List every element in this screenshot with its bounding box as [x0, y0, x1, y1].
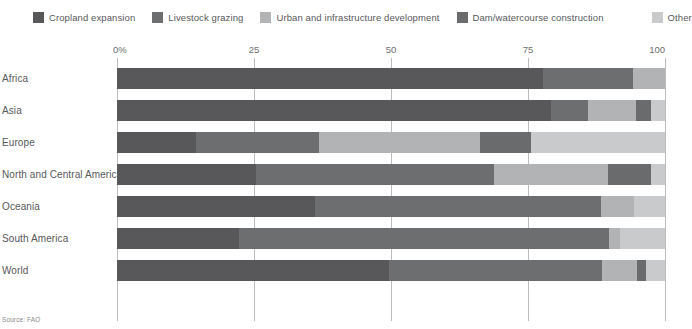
legend-swatch-other — [652, 12, 663, 23]
legend-label-cropland-expansion: Cropland expansion — [49, 12, 135, 23]
bar-segment-cropland-expansion[interactable] — [117, 68, 543, 89]
category-label-north-and-central-america: North and Central America — [2, 158, 114, 190]
bar-segment-dam-watercourse-construction[interactable] — [480, 132, 531, 153]
category-label-europe: Europe — [2, 126, 114, 158]
x-axis-tick-50: 50 — [386, 44, 397, 55]
bar-segment-cropland-expansion[interactable] — [117, 228, 239, 249]
legend-swatch-dam-watercourse-construction — [457, 12, 468, 23]
stacked-bar-world — [117, 260, 665, 281]
legend-label-livestock-grazing: Livestock grazing — [168, 12, 243, 23]
bar-segment-cropland-expansion[interactable] — [117, 132, 196, 153]
stacked-bar-south-america — [117, 228, 665, 249]
bar-segment-dam-watercourse-construction[interactable] — [637, 260, 646, 281]
category-label-oceania: Oceania — [2, 190, 114, 222]
chart-row-europe: Europe — [0, 126, 672, 158]
x-axis-tick-0: 0% — [113, 44, 127, 55]
category-label-asia: Asia — [2, 94, 114, 126]
bar-segment-livestock-grazing[interactable] — [315, 196, 601, 217]
legend-label-urban-and-infrastructure-development: Urban and infrastructure development — [276, 12, 439, 23]
category-label-world: World — [2, 254, 114, 286]
chart-legend: Cropland expansion Livestock grazing Urb… — [0, 6, 672, 28]
bar-segment-cropland-expansion[interactable] — [117, 196, 315, 217]
bar-segment-other[interactable] — [651, 164, 665, 185]
bar-segment-livestock-grazing[interactable] — [239, 228, 609, 249]
stacked-bar-africa — [117, 68, 665, 89]
x-axis-tick-25: 25 — [249, 44, 260, 55]
x-axis-tick-100: 100 — [649, 44, 665, 55]
bar-segment-cropland-expansion[interactable] — [117, 260, 389, 281]
bar-segment-urban-and-infrastructure-development[interactable] — [494, 164, 608, 185]
legend-item-other: Other — [652, 12, 692, 23]
bar-segment-urban-and-infrastructure-development[interactable] — [609, 228, 620, 249]
legend-item-cropland-expansion: Cropland expansion — [33, 12, 135, 23]
legend-label-dam-watercourse-construction: Dam/watercourse construction — [473, 12, 604, 23]
legend-label-other: Other — [668, 12, 692, 23]
bar-segment-urban-and-infrastructure-development[interactable] — [601, 196, 634, 217]
legend-swatch-cropland-expansion — [33, 12, 44, 23]
category-label-africa: Africa — [2, 62, 114, 94]
stacked-bar-north-and-central-america — [117, 164, 665, 185]
bar-segment-dam-watercourse-construction[interactable] — [608, 164, 651, 185]
bar-segment-livestock-grazing[interactable] — [543, 68, 633, 89]
bar-segment-other[interactable] — [531, 132, 665, 153]
chart-row-world: World — [0, 254, 672, 286]
bar-segment-livestock-grazing[interactable] — [389, 260, 602, 281]
bar-segment-urban-and-infrastructure-development[interactable] — [319, 132, 480, 153]
bar-segment-livestock-grazing[interactable] — [551, 100, 588, 121]
bar-segment-livestock-grazing[interactable] — [256, 164, 494, 185]
legend-swatch-livestock-grazing — [152, 12, 163, 23]
stacked-bar-europe — [117, 132, 665, 153]
legend-item-dam-watercourse-construction: Dam/watercourse construction — [457, 12, 604, 23]
bar-segment-urban-and-infrastructure-development[interactable] — [588, 100, 636, 121]
stacked-bar-oceania — [117, 196, 665, 217]
bar-segment-livestock-grazing[interactable] — [196, 132, 319, 153]
bar-segment-other[interactable] — [620, 228, 665, 249]
legend-swatch-urban-and-infrastructure-development — [260, 12, 271, 23]
bar-segment-other[interactable] — [646, 260, 665, 281]
bar-segment-other[interactable] — [634, 196, 665, 217]
chart-row-oceania: Oceania — [0, 190, 672, 222]
chart-row-africa: Africa — [0, 62, 672, 94]
legend-item-livestock-grazing: Livestock grazing — [152, 12, 243, 23]
bar-segment-urban-and-infrastructure-development[interactable] — [633, 68, 665, 89]
chart-row-north-and-central-america: North and Central America — [0, 158, 672, 190]
bar-segment-other[interactable] — [651, 100, 665, 121]
chart-plot-area: Africa Asia Europe North and Central Ame… — [0, 62, 672, 314]
legend-item-urban-and-infrastructure-development: Urban and infrastructure development — [260, 12, 439, 23]
stacked-bar-asia — [117, 100, 665, 121]
source-note: Source: FAO — [2, 316, 40, 323]
category-label-south-america: South America — [2, 222, 114, 254]
chart-row-asia: Asia — [0, 94, 672, 126]
bar-segment-dam-watercourse-construction[interactable] — [636, 100, 650, 121]
bar-segment-cropland-expansion[interactable] — [117, 100, 551, 121]
bar-segment-urban-and-infrastructure-development[interactable] — [602, 260, 637, 281]
bar-segment-cropland-expansion[interactable] — [117, 164, 256, 185]
x-axis-tick-75: 75 — [523, 44, 534, 55]
chart-row-south-america: South America — [0, 222, 672, 254]
x-axis-tick-labels: 0% 25 50 75 100 — [117, 44, 665, 58]
